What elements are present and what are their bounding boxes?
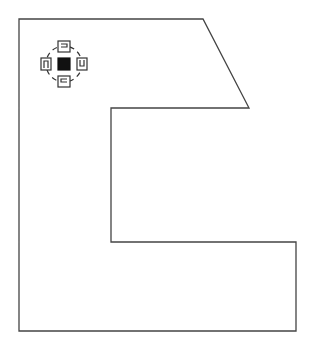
rotation-symmetry-icon (41, 41, 87, 87)
mini-shape-bottom-icon (58, 76, 70, 87)
mini-shape-top-icon (58, 41, 70, 52)
mini-shape-right-icon (77, 58, 87, 70)
mini-shape-left-icon (41, 58, 51, 70)
diagram-canvas (0, 0, 312, 351)
center-square-icon (58, 58, 70, 70)
